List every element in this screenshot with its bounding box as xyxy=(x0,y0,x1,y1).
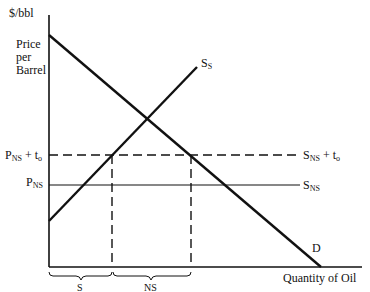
ns-supply-taxed-label: SNS + to xyxy=(303,149,340,165)
domestic-supply-label: SS xyxy=(201,57,212,73)
untaxed-price-label: PNS xyxy=(26,176,43,192)
demand-label: D xyxy=(312,242,321,255)
bracket-s xyxy=(49,272,112,280)
taxed-price-label: PNS + to xyxy=(5,149,42,165)
demand-curve xyxy=(49,35,321,267)
domestic-supply-curve xyxy=(49,67,197,221)
x-axis-title: Quantity of Oil xyxy=(283,272,356,285)
y-axis-unit-label: $/bbl xyxy=(9,7,34,20)
ns-supply-label: SNS xyxy=(303,179,320,195)
y-axis-title-line-3: Barrel xyxy=(16,64,46,77)
bracket-ns xyxy=(113,272,191,280)
bracket-s-label: S xyxy=(77,281,83,292)
bracket-ns-label: NS xyxy=(144,281,157,292)
